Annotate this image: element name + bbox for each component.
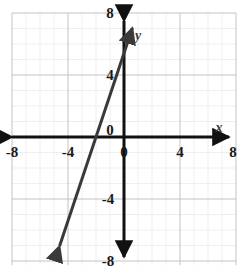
- y-tick-label-4: 4: [106, 67, 114, 83]
- x-tick-label-0: 0: [120, 144, 128, 160]
- coordinate-plane: -8 -4 0 4 8 8 4 0 -4 -8 x y: [0, 0, 241, 274]
- y-axis-label: y: [133, 28, 142, 43]
- x-tick-label--8: -8: [6, 144, 19, 160]
- x-tick-label-8: 8: [229, 144, 237, 160]
- y-tick-label-8: 8: [106, 5, 114, 21]
- x-tick-label-4: 4: [176, 144, 184, 160]
- x-tick-label--4: -4: [62, 144, 75, 160]
- y-tick-label-0: 0: [106, 122, 114, 138]
- graph-figure: -8 -4 0 4 8 8 4 0 -4 -8 x y: [0, 0, 241, 274]
- y-tick-label--4: -4: [102, 191, 115, 207]
- x-axis-label: x: [215, 120, 223, 135]
- y-tick-label--8: -8: [102, 253, 115, 269]
